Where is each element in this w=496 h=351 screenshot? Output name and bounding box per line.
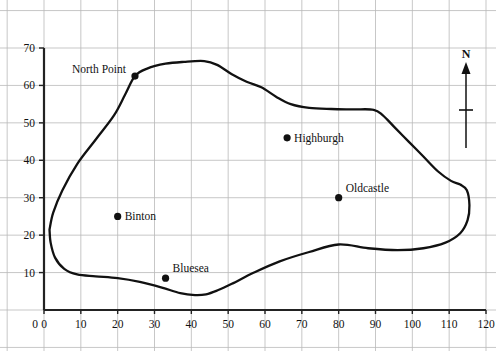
map-figure: 0102030405060708090100110120 10203040506… xyxy=(0,0,496,351)
city-dot-icon xyxy=(162,275,169,282)
y-tick-label: 40 xyxy=(24,154,36,166)
x-tick-label: 90 xyxy=(370,318,382,330)
x-tick-label: 80 xyxy=(333,318,345,330)
x-tick-label: 70 xyxy=(296,318,308,330)
city-label: Highburgh xyxy=(294,132,344,145)
x-tick-label: 110 xyxy=(441,318,458,330)
x-tick-label: 0 xyxy=(41,318,47,330)
y-tick-label: 60 xyxy=(24,79,36,91)
city-dot-icon xyxy=(131,72,138,79)
city-marker[interactable]: North Point xyxy=(72,63,139,80)
x-tick-label: 100 xyxy=(404,318,422,330)
background-grid xyxy=(0,0,496,351)
x-tick-label: 50 xyxy=(222,318,234,330)
city-marker[interactable]: Highburgh xyxy=(284,132,344,145)
city-dot-icon xyxy=(114,213,121,220)
city-label: Bluesea xyxy=(173,262,209,274)
city-label: North Point xyxy=(72,63,127,75)
x-tick-label: 30 xyxy=(149,318,161,330)
y-tick-label: 50 xyxy=(24,117,36,129)
city-marker[interactable]: Binton xyxy=(114,210,156,222)
x-tick-label: 40 xyxy=(186,318,198,330)
x-axis-tick-labels: 0102030405060708090100110120 xyxy=(41,318,495,330)
city-marker[interactable]: Oldcastle xyxy=(335,182,389,202)
y-tick-label: 70 xyxy=(24,42,36,54)
x-tick-label: 60 xyxy=(259,318,271,330)
north-arrow: N xyxy=(459,47,473,148)
city-markers-group: North PointHighburghOldcastleBintonBlues… xyxy=(72,63,389,282)
map-svg: 0102030405060708090100110120 10203040506… xyxy=(0,0,496,351)
city-label: Oldcastle xyxy=(346,182,389,194)
north-arrow-label: N xyxy=(462,47,471,61)
y-tick-label-zero: 0 xyxy=(32,318,38,330)
x-tick-label: 10 xyxy=(75,318,87,330)
city-label: Binton xyxy=(125,210,157,222)
y-tick-label: 30 xyxy=(24,192,36,204)
y-tick-label: 20 xyxy=(24,229,36,241)
x-tick-label: 120 xyxy=(477,318,495,330)
city-dot-icon xyxy=(284,134,291,141)
coastline-path xyxy=(50,61,470,295)
city-marker[interactable]: Bluesea xyxy=(162,262,209,282)
x-tick-label: 20 xyxy=(112,318,124,330)
city-dot-icon xyxy=(335,194,342,201)
y-tick-label: 10 xyxy=(24,267,36,279)
coastline-path-group xyxy=(50,61,470,295)
